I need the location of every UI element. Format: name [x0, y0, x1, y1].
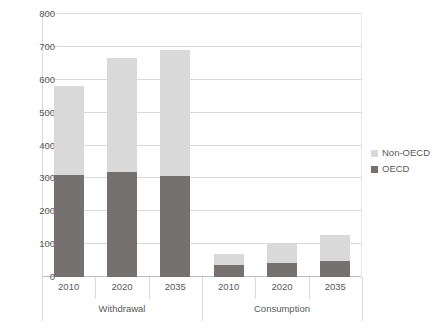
- bar-segment-non-oecd: [214, 254, 244, 265]
- legend-swatch-icon: [371, 150, 378, 157]
- bar-segment-non-oecd: [54, 86, 84, 175]
- bar-segment-non-oecd: [107, 58, 137, 172]
- bar-segment-non-oecd: [267, 244, 297, 263]
- group-separator-0: [42, 299, 43, 321]
- bar-withdrawal-2035: [160, 50, 190, 277]
- x-axis-category-labels: 201020202035201020202035: [42, 277, 362, 299]
- x-axis-separator-0: [42, 277, 43, 299]
- x-axis-group-labels: WithdrawalConsumption: [42, 299, 362, 323]
- x-axis-label-4: 2020: [256, 281, 308, 293]
- bar-consumption-2010: [214, 254, 244, 277]
- bar-segment-oecd: [160, 176, 190, 277]
- x-axis-separator-5: [309, 277, 310, 299]
- x-axis-label-0: 2010: [43, 281, 95, 293]
- bar-segment-oecd: [214, 265, 244, 277]
- group-label-consumption: Consumption: [202, 303, 362, 315]
- group-label-withdrawal: Withdrawal: [42, 303, 202, 315]
- bar-consumption-2020: [267, 244, 297, 277]
- stacked-bar-chart: 0100200300400500600700800 20102020203520…: [0, 0, 435, 335]
- x-axis-label-5: 2035: [309, 281, 361, 293]
- x-axis-separator-2: [149, 277, 150, 299]
- legend-swatch-icon: [371, 166, 378, 173]
- bar-segment-non-oecd: [160, 50, 190, 176]
- chart-legend: Non-OECDOECD: [371, 146, 435, 178]
- x-axis-label-1: 2020: [96, 281, 148, 293]
- legend-label: Non-OECD: [382, 148, 430, 158]
- bar-segment-oecd: [267, 263, 297, 277]
- legend-label: OECD: [382, 164, 409, 174]
- legend-item-non-oecd[interactable]: Non-OECD: [371, 146, 435, 160]
- bar-consumption-2035: [320, 235, 350, 277]
- legend-item-oecd[interactable]: OECD: [371, 162, 435, 176]
- bar-withdrawal-2010: [54, 86, 84, 277]
- bar-segment-oecd: [320, 261, 350, 277]
- group-separator-end: [362, 299, 363, 321]
- bar-withdrawal-2020: [107, 58, 137, 277]
- x-axis-separator-3: [202, 277, 203, 299]
- bars-layer: [42, 14, 362, 277]
- x-axis-separator-1: [95, 277, 96, 299]
- x-axis-label-2: 2035: [149, 281, 201, 293]
- bar-segment-oecd: [107, 172, 137, 277]
- bar-segment-oecd: [54, 175, 84, 277]
- x-axis-separator-6: [362, 277, 363, 299]
- x-axis-label-3: 2010: [203, 281, 255, 293]
- x-axis-separator-4: [255, 277, 256, 299]
- group-separator-1: [202, 299, 203, 321]
- bar-segment-non-oecd: [320, 235, 350, 261]
